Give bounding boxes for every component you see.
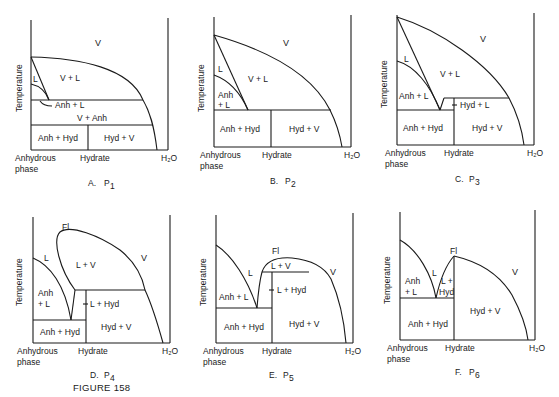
region-label: L: [432, 268, 437, 278]
panel-d: Fl L L + V V Anh + L L + Hyd Anh + Hyd H…: [14, 215, 178, 393]
x-label-anhydrous: Anhydrous: [15, 153, 56, 163]
region-label: L: [404, 54, 409, 64]
x-label-water: H₂O: [345, 346, 361, 356]
x-label-hydrate: Hydrate: [80, 153, 110, 163]
caption-letter: F.: [455, 367, 462, 377]
region-label: V: [512, 267, 518, 277]
y-axis-label: Temperature: [382, 256, 392, 304]
region-label: Anh + L: [399, 91, 429, 101]
critical-point-label: Fl: [272, 246, 279, 256]
x-label-anhydrous: Anhydrous: [200, 150, 241, 160]
y-axis-label: Temperature: [198, 258, 208, 306]
x-label-phase: phase: [200, 161, 223, 171]
caption-sub: 6: [475, 370, 480, 380]
region-label: Anh + Hyd: [408, 319, 448, 329]
anh-liquidus-curve: [31, 84, 49, 100]
x-label-hydrate: Hydrate: [262, 150, 292, 160]
region-label: Hyd + V: [104, 133, 135, 143]
region-label: Hyd + V: [289, 124, 320, 134]
x-label-hydrate: Hydrate: [262, 346, 292, 356]
region-label: L + V: [76, 260, 96, 270]
critical-point-label: Fl: [62, 222, 69, 232]
x-label-water: H₂O: [344, 150, 360, 160]
region-label: Hyd: [439, 287, 454, 297]
region-label: L: [248, 268, 253, 278]
caption-letter: C.: [455, 174, 464, 184]
panel-c: V L V + L Anh + L Hyd + L Anh + Hyd Hyd …: [379, 13, 543, 187]
region-label: V: [95, 38, 101, 48]
x-label-water: H₂O: [161, 153, 177, 163]
region-label: V: [283, 38, 289, 48]
panel-b: V L V + L Anh + L Anh + Hyd Hyd + V Temp…: [196, 15, 360, 189]
region-label: Anh: [218, 90, 233, 100]
x-label-anhydrous: Anhydrous: [17, 346, 58, 356]
caption-letter: E.: [269, 370, 277, 380]
x-label-hydrate: Hydrate: [78, 346, 108, 356]
region-label: V + L: [60, 73, 80, 83]
x-label-hydrate: Hydrate: [444, 148, 474, 158]
panel-f: Fl L V Anh + L L + Hyd Hyd + V Anh + Hyd…: [382, 210, 545, 380]
region-label: Anh + Hyd: [38, 133, 78, 143]
region-label: + L: [38, 299, 50, 309]
caption-letter: A.: [88, 178, 96, 188]
region-label: L + V: [271, 261, 291, 271]
y-axis-label: Temperature: [14, 258, 24, 306]
caption-sub: 3: [475, 177, 480, 187]
region-label: Hyd + V: [472, 123, 503, 133]
caption-letter: B.: [270, 176, 278, 186]
y-axis-label: Temperature: [14, 64, 24, 112]
region-label: Hyd + V: [289, 319, 320, 329]
x-label-anhydrous: Anhydrous: [203, 346, 244, 356]
region-label: Hyd + V: [101, 322, 132, 332]
region-label: Hyd + V: [470, 306, 501, 316]
anh-liquidus-curve: [397, 61, 440, 110]
y-axis-label: Temperature: [379, 60, 389, 108]
x-label-phase: phase: [17, 357, 40, 367]
pointer-arrow: [40, 101, 52, 106]
x-label-phase: phase: [387, 354, 410, 364]
region-label: + L: [405, 287, 417, 297]
region-label: Anh + L: [55, 100, 85, 110]
region-label: L: [218, 64, 223, 74]
caption-sub: 2: [291, 179, 296, 189]
caption-letter: D.: [90, 370, 99, 380]
caption-sub: 5: [289, 373, 294, 383]
region-label: Anh + Hyd: [40, 327, 80, 337]
region-label: Anh + L: [219, 292, 249, 302]
region-label: L: [44, 253, 49, 263]
critical-point-label: Fl: [450, 246, 457, 256]
x-label-anhydrous: Anhydrous: [387, 343, 428, 353]
region-label: V + Anh: [77, 113, 107, 123]
region-label: V + L: [440, 69, 460, 79]
region-label: V: [330, 267, 336, 277]
region-label: L +: [441, 276, 453, 286]
panel-e: Fl L L + V V Anh + L L + Hyd Anh + Hyd H…: [198, 213, 361, 383]
panel-a: V V + L L Anh + L V + Anh Anh + Hyd Hyd …: [14, 18, 177, 191]
figure-title: FIGURE 158: [73, 382, 130, 393]
x-label-anhydrous: Anhydrous: [385, 148, 426, 158]
x-label-phase: phase: [385, 159, 408, 169]
region-label: Anh + Hyd: [224, 322, 264, 332]
y-axis-label: Temperature: [196, 64, 206, 112]
x-label-water: H₂O: [529, 343, 545, 353]
hyd-liquidus-curve: [71, 290, 75, 320]
region-label: V + L: [248, 74, 268, 84]
caption-sub: 1: [110, 181, 115, 191]
x-label-water: H₂O: [527, 148, 543, 158]
region-label: L + Hyd: [277, 285, 306, 295]
region-label: L: [33, 74, 38, 84]
region-label: V: [480, 34, 486, 44]
region-label: L + Hyd: [90, 299, 119, 309]
x-label-phase: phase: [15, 164, 38, 174]
region-label: Anh + Hyd: [403, 123, 443, 133]
region-label: Anh + Hyd: [220, 124, 260, 134]
x-label-hydrate: Hydrate: [445, 343, 475, 353]
x-label-water: H₂O: [162, 346, 178, 356]
region-label: Anh: [405, 276, 420, 286]
hyd-liquidus-curve: [440, 98, 444, 110]
region-label: V: [141, 253, 147, 263]
phase-diagram-figure: V V + L L Anh + L V + Anh Anh + Hyd Hyd …: [0, 0, 559, 397]
x-label-phase: phase: [203, 357, 226, 367]
region-label: Anh: [38, 288, 53, 298]
region-label: + L: [218, 100, 230, 110]
